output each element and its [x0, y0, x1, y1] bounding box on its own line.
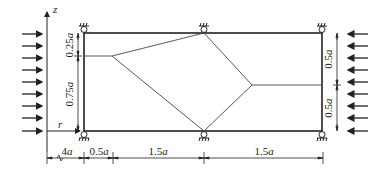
right-dim-1: 0.5a	[322, 98, 334, 118]
right-load-arrows	[348, 34, 368, 131]
r-axis-label: r	[58, 118, 63, 130]
z-axis-label: z	[52, 3, 58, 15]
bottom-dim-0: 4a	[62, 145, 74, 157]
bottom-dim-3: 1.5a	[254, 145, 274, 157]
support-top-mid	[199, 23, 209, 33]
diagram-canvas: z r	[0, 0, 383, 176]
bottom-dim-2: 1.5a	[148, 145, 168, 157]
support-top-left	[79, 23, 89, 33]
support-top-right	[317, 23, 327, 33]
domain-rectangle	[84, 33, 322, 131]
right-dimensions	[333, 33, 341, 131]
r-axis: r	[47, 118, 80, 131]
left-load-arrows	[22, 34, 42, 131]
support-bottom-left	[79, 132, 89, 142]
left-dim-0: 0.25a	[63, 32, 75, 57]
left-dimensions	[74, 33, 82, 131]
left-dim-1: 0.75a	[63, 81, 75, 106]
bottom-dim-1: 0.5a	[89, 145, 109, 157]
z-axis: z	[47, 3, 58, 152]
strut-polygon	[84, 33, 322, 131]
support-bottom-mid	[199, 132, 209, 142]
right-dim-0: 0.5a	[322, 49, 334, 69]
support-bottom-right	[317, 132, 327, 142]
